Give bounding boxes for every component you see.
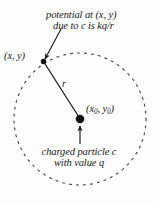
potential-annotation-line1: potential at (x, y) [46, 9, 116, 20]
particle-caption-line2: with value q [29, 157, 129, 168]
potential-callout-arrow [45, 29, 61, 59]
center-label-base: (x [86, 103, 94, 114]
potential-diagram: potential at (x, y) due to c is kq/r (x,… [0, 0, 158, 203]
particle-caption: charged particle c with value q [29, 146, 129, 169]
center-label-sub1: 0 [94, 108, 98, 116]
charged-particle-dot [76, 115, 85, 124]
charged-particle-label: (x0, y0) [86, 103, 114, 115]
radius-label: r [62, 79, 66, 90]
potential-annotation-line2: due to c is kq/r [46, 20, 116, 31]
center-label-end: ) [111, 103, 114, 114]
potential-annotation: potential at (x, y) due to c is kq/r [46, 9, 116, 32]
center-label-mid: , y [97, 103, 107, 114]
field-point-dot [41, 59, 46, 64]
particle-caption-line1: charged particle c [42, 146, 117, 157]
center-label-sub2: 0 [107, 108, 111, 116]
field-point-label: (x, y) [4, 50, 25, 61]
